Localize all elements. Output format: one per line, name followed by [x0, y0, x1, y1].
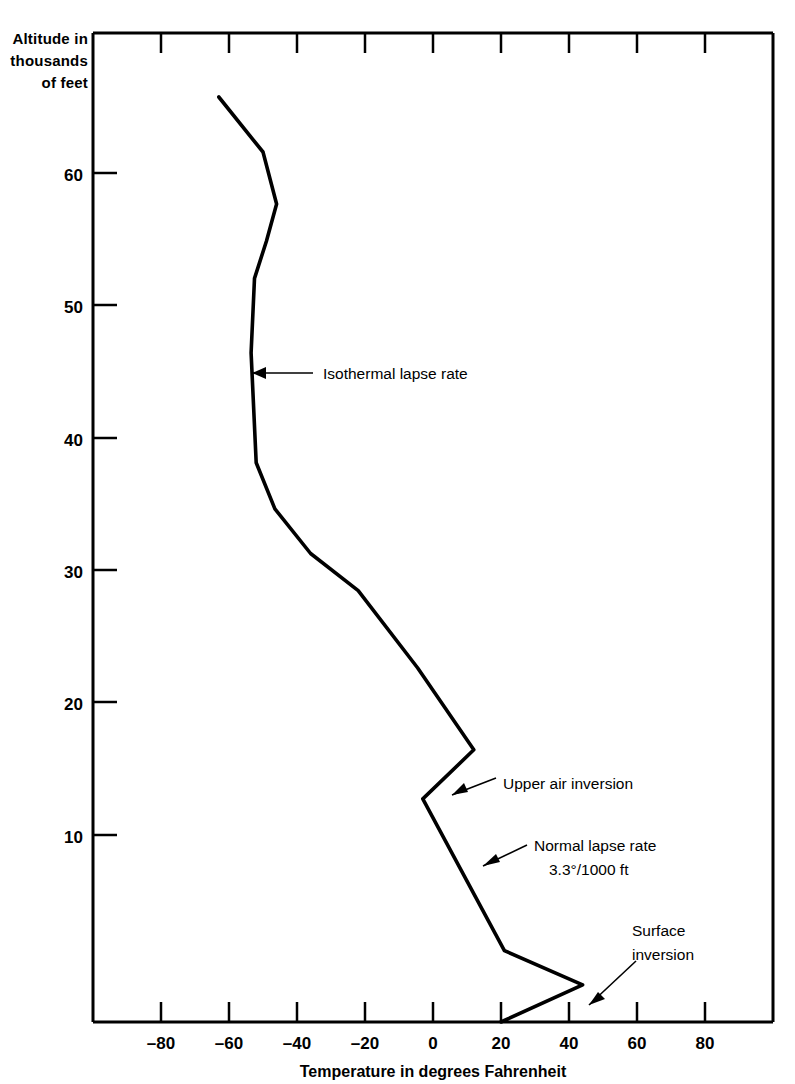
y-tick-labels: 60 50 40 30 20 10: [64, 166, 83, 847]
annotation-upper-air-inversion: Upper air inversion: [452, 775, 633, 795]
y-axis-title: Altitude in thousands of feet: [10, 30, 88, 91]
annotation-arrowhead: [452, 783, 468, 795]
x-tick-label: –60: [215, 1034, 243, 1053]
chart-figure: 60 50 40 30 20 10 –80 –60 –40 –20 0 20 4…: [0, 0, 795, 1084]
annotation-label: inversion: [632, 946, 694, 963]
plot-frame: [93, 33, 773, 1022]
y-axis-title-line: of feet: [42, 74, 88, 91]
x-tick-label: –20: [351, 1034, 379, 1053]
y-tick-label: 10: [64, 828, 83, 847]
y-tick-label: 30: [64, 563, 83, 582]
x-tick-label: 40: [560, 1034, 579, 1053]
bottom-tick-marks: [161, 1002, 705, 1022]
x-tick-labels: –80 –60 –40 –20 0 20 40 60 80: [147, 1034, 715, 1053]
annotation-label: Upper air inversion: [503, 775, 633, 792]
y-axis-title-line: Altitude in: [12, 30, 88, 47]
annotation-label: Normal lapse rate: [534, 837, 656, 854]
x-tick-label: 0: [428, 1034, 437, 1053]
annotation-label: Surface: [632, 922, 685, 939]
y-tick-label: 60: [64, 166, 83, 185]
annotation-arrowhead: [252, 367, 266, 379]
left-tick-marks: [93, 173, 117, 835]
top-tick-marks: [161, 33, 705, 53]
temperature-altitude-chart: 60 50 40 30 20 10 –80 –60 –40 –20 0 20 4…: [0, 0, 795, 1084]
annotation-label: 3.3°/1000 ft: [549, 861, 629, 878]
annotation-surface-inversion: Surface inversion: [589, 922, 694, 1005]
x-axis-title: Temperature in degrees Fahrenheit: [300, 1063, 567, 1080]
annotation-label: Isothermal lapse rate: [323, 365, 468, 382]
annotation-isothermal: Isothermal lapse rate: [252, 365, 468, 382]
temperature-sounding-curve: [219, 97, 583, 1022]
annotation-arrowhead: [589, 992, 605, 1005]
y-tick-label: 20: [64, 695, 83, 714]
x-tick-label: 60: [628, 1034, 647, 1053]
x-tick-label: 80: [696, 1034, 715, 1053]
x-tick-label: –80: [147, 1034, 175, 1053]
y-tick-label: 40: [64, 431, 83, 450]
y-axis-title-line: thousands: [10, 52, 88, 69]
x-tick-label: –40: [283, 1034, 311, 1053]
y-tick-label: 50: [64, 298, 83, 317]
x-tick-label: 20: [492, 1034, 511, 1053]
annotation-arrowhead: [483, 854, 500, 866]
annotation-normal-lapse-rate: Normal lapse rate 3.3°/1000 ft: [483, 837, 656, 878]
